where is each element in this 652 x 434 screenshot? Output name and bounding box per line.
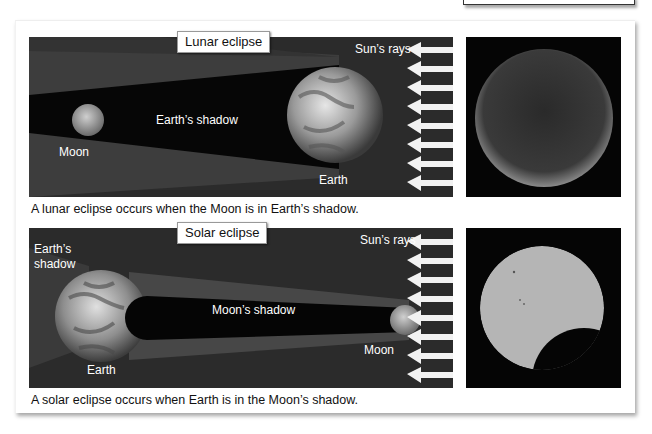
moon-icon <box>72 104 104 136</box>
earth-label: Earth <box>319 173 348 187</box>
suns-rays-label: Sun’s rays <box>355 42 411 56</box>
solar-caption: A solar eclipse occurs when Earth is in … <box>31 393 358 407</box>
lunar-diagram-graphic <box>29 37 453 197</box>
header-box <box>463 0 635 5</box>
earth-label: Earth <box>87 363 116 377</box>
partial-eclipse-sun-icon <box>466 228 621 388</box>
eclipsed-moon-icon <box>466 37 621 197</box>
sun-rays-arrows <box>407 42 453 191</box>
moon-label: Moon <box>364 343 394 357</box>
lunar-eclipse-diagram: Sun’s rays Earth’s shadow Moon Earth <box>29 37 453 197</box>
eclipsed-moon-photo <box>466 37 621 197</box>
earths-shadow-label: Earth’s shadow <box>34 242 78 272</box>
suns-rays-label: Sun’s rays <box>360 233 416 247</box>
moons-shadow-label: Moon’s shadow <box>212 303 295 317</box>
lunar-caption: A lunar eclipse occurs when the Moon is … <box>31 202 359 216</box>
solar-eclipse-title: Solar eclipse <box>177 222 267 244</box>
moon-label: Moon <box>59 145 89 159</box>
earth-icon <box>287 67 383 163</box>
partially-eclipsed-sun-photo <box>466 228 621 388</box>
solar-eclipse-diagram: Earth’s shadow Moon’s shadow Sun’s rays … <box>29 228 453 388</box>
earths-shadow-label: Earth’s shadow <box>156 113 238 127</box>
lunar-eclipse-title: Lunar eclipse <box>177 31 270 53</box>
